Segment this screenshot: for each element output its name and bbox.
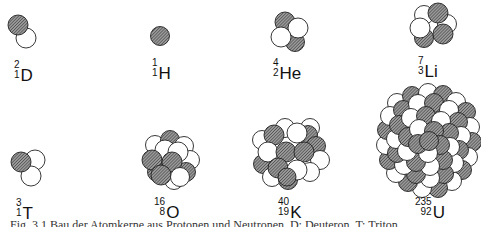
nuclei-diagram: [0, 0, 481, 227]
atomic-number: 1: [152, 68, 158, 78]
element-symbol: D: [21, 67, 33, 84]
nucleus-deuterium: [8, 15, 36, 48]
label-hydrogen: 11H: [152, 58, 171, 82]
label-uranium: 23592U: [415, 197, 445, 221]
figure-caption: Fig. 3.1 Bau der Atomkerne aus Protonen …: [10, 219, 398, 227]
nucleus-lithium: [410, 3, 457, 48]
label-deuterium: 21D: [14, 60, 33, 84]
element-symbol: He: [280, 65, 302, 82]
nucleus-uranium: [377, 84, 481, 198]
atomic-number: 8: [154, 207, 165, 217]
nucleus-hydrogen: [151, 27, 170, 46]
nucleus-oxygen: [142, 131, 200, 190]
atomic-number: 19: [278, 207, 289, 217]
atomic-number: 2: [273, 68, 279, 78]
atomic-number: 1: [14, 70, 20, 80]
label-helium: 42He: [273, 58, 301, 82]
nucleus-tritium: [11, 150, 45, 186]
nucleus-helium: [271, 12, 308, 52]
element-symbol: U: [433, 204, 445, 221]
element-symbol: H: [159, 65, 171, 82]
label-lithium: 73Li: [418, 56, 438, 80]
atomic-number: 92: [415, 207, 432, 217]
nucleus-potassium: [253, 119, 330, 190]
atomic-number: 3: [418, 66, 424, 76]
element-symbol: Li: [425, 63, 438, 80]
atomic-number: 1: [16, 208, 22, 218]
